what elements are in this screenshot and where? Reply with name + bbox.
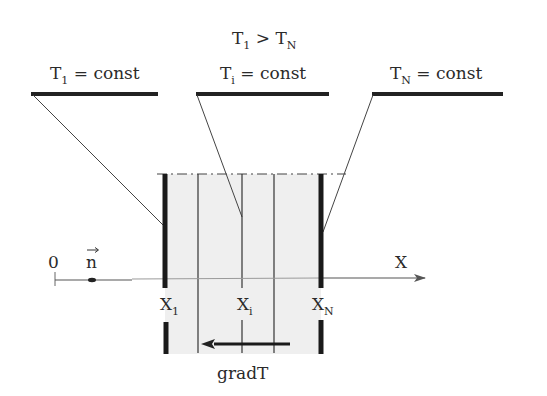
boundary-label-tn: TN = const — [390, 63, 482, 87]
origin-label: 0 — [48, 252, 59, 272]
svg-text:n: n — [86, 252, 97, 272]
diagram-title: T1 > TN — [232, 28, 297, 52]
x-axis-label: X — [395, 252, 408, 272]
gradient-label: gradT — [217, 363, 269, 383]
medium-region — [165, 174, 321, 354]
temperature-gradient-diagram: T1 > TN T1 = const Ti = const TN = const… — [0, 0, 547, 396]
leader-line-t1 — [33, 95, 163, 225]
normal-vector-label: n — [86, 248, 99, 273]
leader-line-tn — [323, 95, 373, 232]
boundary-label-t1: T1 = const — [50, 63, 140, 87]
boundary-label-ti: Ti = const — [220, 63, 306, 87]
normal-vector-point — [88, 278, 96, 282]
